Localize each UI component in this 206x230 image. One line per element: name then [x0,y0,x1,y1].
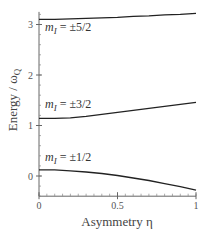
x-tick-label: 0.5 [111,200,124,211]
y-tick-label: 1 [28,120,33,131]
curve-label: mI = ±1/2 [45,150,91,166]
x-tick-label: 0 [37,200,42,211]
curve-labels: mI = ±5/2mI = ±3/2mI = ±1/2 [45,20,91,166]
energy-curve-0 [39,13,196,19]
y-tick-label: 0 [28,171,33,182]
curve-label: mI = ±5/2 [45,20,91,36]
curve-label: mI = ±3/2 [45,97,91,113]
x-tick-label: 1 [194,200,199,211]
y-tick-label: 2 [28,70,33,81]
x-axis-title: Asymmetry η [81,214,153,229]
y-tick-label: 3 [28,19,33,30]
energy-curve-2 [39,170,196,190]
y-axis-title: Energy / ωQ [5,68,22,131]
energy-vs-asymmetry-chart: 012300.51 mI = ±5/2mI = ±3/2mI = ±1/2 As… [0,0,206,230]
